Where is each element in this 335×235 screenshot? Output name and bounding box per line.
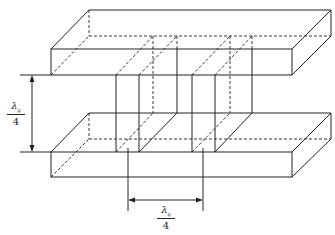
top-slab — [51, 10, 331, 75]
waveguide-diagram — [0, 0, 335, 235]
bottom-slab — [51, 113, 331, 177]
post-1 — [116, 36, 177, 152]
top-slab-front-face — [51, 49, 292, 75]
vertical-dimension-arrow — [30, 75, 35, 152]
top-slab-top-face — [51, 10, 331, 75]
horizontal-dimension-arrow — [128, 148, 203, 211]
horizontal-spacing-label: λg 4 — [155, 205, 177, 231]
bottom-slab-front-face — [51, 152, 292, 177]
post-2 — [192, 36, 252, 152]
vertical-spacing-label: λg 4 — [5, 101, 27, 127]
